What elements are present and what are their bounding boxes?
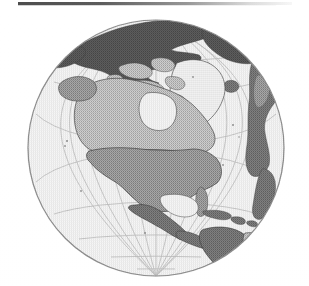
landmass-iceland [224, 80, 239, 92]
landmass-alaska [59, 77, 97, 102]
globe-svg [27, 19, 285, 277]
landmass-brazil [242, 233, 279, 277]
scan-artifact-bar-fade [18, 5, 276, 6]
hudson-bay [139, 92, 177, 130]
figure-page: Orthographic globe projection centered o… [0, 0, 309, 286]
globe-figure [27, 19, 285, 277]
